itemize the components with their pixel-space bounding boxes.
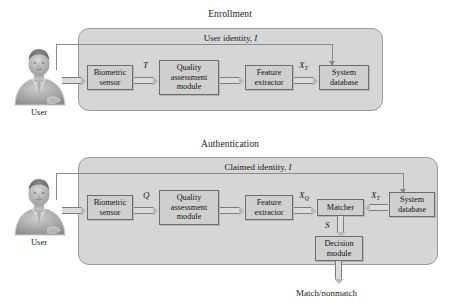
enrollment-user-caption: User [11,107,67,117]
authentication-signal-XT: XT [371,190,380,201]
box-line: Quality [171,63,207,72]
authentication-box-matcher: Matcher [317,199,364,216]
authentication-box-system-database: System database [389,192,435,217]
authentication-box-biometric-sensor: Biometric sensor [87,195,133,220]
box-line: System [398,195,426,204]
authentication-output-label: Match/nonmatch [296,288,357,298]
authentication-arrow-quality-to-feature [220,207,244,214]
box-line: Decision [324,239,353,248]
box-line: sensor [94,78,127,87]
authentication-identity-text: Claimed identity, [224,162,286,172]
authentication-user-figure [11,178,67,236]
diagram-canvas: Enrollment User identity, I [0,0,453,308]
authentication-identity-line-horizontal [56,173,404,174]
authentication-identity-line-vertical-right [403,173,404,190]
box-line: assessment [171,73,207,82]
enrollment-identity-symbol: I [254,33,257,43]
enrollment-arrow-user-to-sensor [62,77,86,84]
authentication-box-quality-assessment-module: Quality assessment module [159,190,219,225]
authentication-identity-symbol: I [289,162,292,172]
box-line: module [324,249,353,258]
box-line: sensor [94,208,127,217]
box-line: module [171,212,207,221]
box-line: Feature [254,198,283,207]
box-line: Feature [254,68,283,77]
enrollment-signal-XT: XT [299,60,308,71]
enrollment-identity-line-horizontal [56,44,333,45]
enrollment-signal-T: T [143,60,148,70]
authentication-user-caption: User [11,237,67,247]
authentication-arrow-sensor-to-quality [134,207,158,214]
authentication-arrow-decision-to-output [335,261,342,284]
box-line: database [398,205,426,214]
enrollment-identity-text: User identity, [204,33,252,43]
authentication-arrow-feature-to-matcher [294,207,316,214]
authentication-box-feature-extractor: Feature extractor [245,195,293,220]
enrollment-arrow-sensor-to-quality [134,77,158,84]
authentication-section-title: Authentication [150,139,310,150]
authentication-box-decision-module: Decision module [315,236,363,261]
box-line: Biometric [94,198,127,207]
authentication-identity-label: Claimed identity, I [128,162,388,172]
authentication-signal-S: S [325,220,330,230]
enrollment-box-quality-assessment-module: Quality assessment module [159,60,219,95]
enrollment-arrow-quality-to-feature [220,77,244,84]
box-line: System [330,68,358,77]
enrollment-box-system-database: System database [319,65,369,90]
box-line: Matcher [327,203,354,212]
enrollment-box-biometric-sensor: Biometric sensor [87,65,133,90]
enrollment-user-figure [11,48,67,106]
enrollment-arrow-feature-to-database [294,77,318,84]
box-line: Quality [171,193,207,202]
enrollment-identity-line-vertical-right [332,44,333,62]
enrollment-identity-label: User identity, I [128,33,333,43]
box-line: Biometric [94,68,127,77]
box-line: module [171,82,207,91]
authentication-arrow-database-to-matcher [365,204,388,211]
authentication-arrow-user-to-sensor [62,207,86,214]
authentication-signal-Q: Q [143,190,150,200]
enrollment-box-feature-extractor: Feature extractor [245,65,293,90]
box-line: database [330,78,358,87]
authentication-signal-XQ: XQ [299,190,309,201]
box-line: assessment [171,203,207,212]
box-line: extractor [254,208,283,217]
enrollment-section-title: Enrollment [150,9,310,20]
box-line: extractor [254,78,283,87]
authentication-arrow-matcher-to-decision [337,216,344,237]
